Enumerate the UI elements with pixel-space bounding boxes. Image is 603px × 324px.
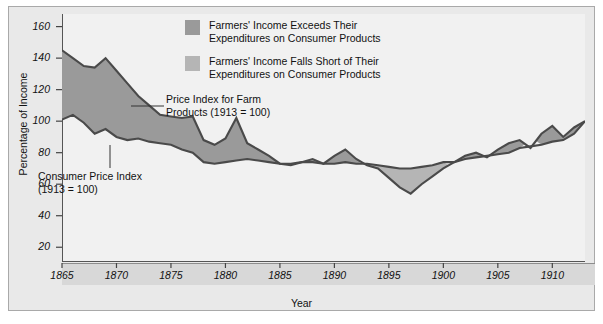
legend-label-income-exceeds: Farmers' Income Exceeds Their Expenditur… xyxy=(209,19,381,44)
x-axis-title: Year xyxy=(0,297,603,309)
x-tick-label: 1900 xyxy=(421,269,465,281)
y-tick-label: 140 xyxy=(16,51,50,63)
legend-swatch-income-falls-short xyxy=(185,56,200,71)
legend-label-income-falls-short: Farmers' Income Falls Short of Their Exp… xyxy=(209,55,381,80)
y-tick-label: 40 xyxy=(16,209,50,221)
x-tick-label: 1865 xyxy=(40,269,84,281)
y-tick-label: 80 xyxy=(16,146,50,158)
chart-figure: Percentage of Income Year 20406080100120… xyxy=(0,0,603,324)
legend-item-income-falls-short: Farmers' Income Falls Short of Their Exp… xyxy=(185,55,381,80)
x-tick-label: 1870 xyxy=(94,269,138,281)
x-tick-label: 1895 xyxy=(367,269,411,281)
x-tick-label: 1875 xyxy=(149,269,193,281)
y-tick-label: 160 xyxy=(16,20,50,32)
y-tick-label: 120 xyxy=(16,83,50,95)
x-tick-label: 1910 xyxy=(530,269,574,281)
x-tick-label: 1885 xyxy=(258,269,302,281)
y-tick-label: 100 xyxy=(16,114,50,126)
consumer-price-index-label: Consumer Price Index (1913 = 100) xyxy=(38,170,142,195)
y-tick-label: 20 xyxy=(16,240,50,252)
legend-item-income-exceeds: Farmers' Income Exceeds Their Expenditur… xyxy=(185,19,381,44)
x-tick-label: 1890 xyxy=(312,269,356,281)
x-tick-label: 1905 xyxy=(476,269,520,281)
farm-products-label: Price Index for Farm Products (1913 = 10… xyxy=(166,93,270,118)
x-tick-label: 1880 xyxy=(203,269,247,281)
legend-swatch-income-exceeds xyxy=(185,20,200,35)
